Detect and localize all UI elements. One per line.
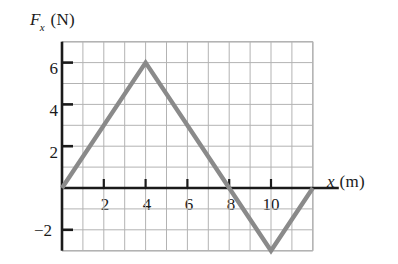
y-axis-tick-marks [62,63,73,230]
x-axis-tick-marks [104,179,271,188]
force-position-graph-figure: Fx (N) x (m) 6 4 2 −2 2 4 6 8 10 [0,0,398,264]
graph-canvas [0,0,398,264]
grid-lines [62,42,313,251]
